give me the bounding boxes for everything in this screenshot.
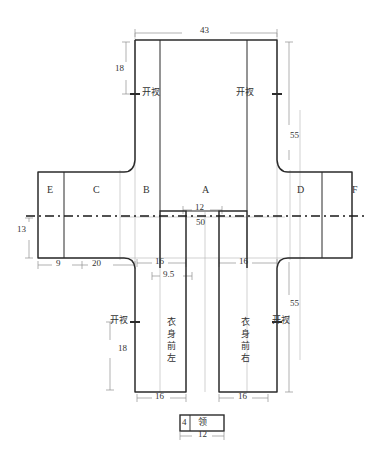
dim-top-width: 43 [200,26,209,35]
piece-label-c: C [93,185,100,195]
dim-left-cuff-width: 9 [56,259,61,268]
body-label-front-right: 衣身前右 [240,317,249,365]
dim-front-left-offset: 9.5 [163,270,174,279]
dim-bottom-left-vent-depth: 18 [118,344,127,353]
panel-divider-lines [64,40,322,258]
piece-label-b: B [143,185,150,195]
vent-label-bottom-right: 开衩 [272,316,290,325]
pattern-vector-graphic [0,0,389,456]
dim-front-left-top-width: 16 [155,257,164,266]
collar-name-label: 领 [198,418,207,427]
dim-front-right-bottom-width: 16 [238,392,247,401]
dim-left-sleeve-width: 20 [92,259,101,268]
piece-label-a: A [202,185,209,195]
pattern-drawing-canvas: 43 18 开衩 开衩 55 55 E C B A D F 12 50 13 9… [0,0,389,456]
dim-neck-inner: 50 [196,218,205,227]
vent-label-top-right: 开衩 [236,88,254,97]
vent-label-bottom-left: 开衩 [110,316,128,325]
dim-right-upper-height: 55 [290,131,299,140]
dim-front-left-bottom-width: 16 [155,392,164,401]
vent-tick-marks [130,94,282,322]
dim-top-left-vent-depth: 18 [115,64,124,73]
body-label-front-left: 衣身前左 [166,317,175,365]
piece-label-f: F [352,185,358,195]
dim-left-sleeve-height: 13 [17,225,26,234]
dim-neck-width: 12 [195,203,204,212]
vent-label-top-left: 开衩 [142,88,160,97]
piece-label-d: D [297,185,304,195]
dim-front-right-top-width: 16 [239,257,248,266]
piece-label-e: E [47,185,53,195]
dim-right-lower-height: 55 [290,299,299,308]
collar-width-label: 12 [198,430,207,439]
collar-height-label: 4 [182,418,187,427]
